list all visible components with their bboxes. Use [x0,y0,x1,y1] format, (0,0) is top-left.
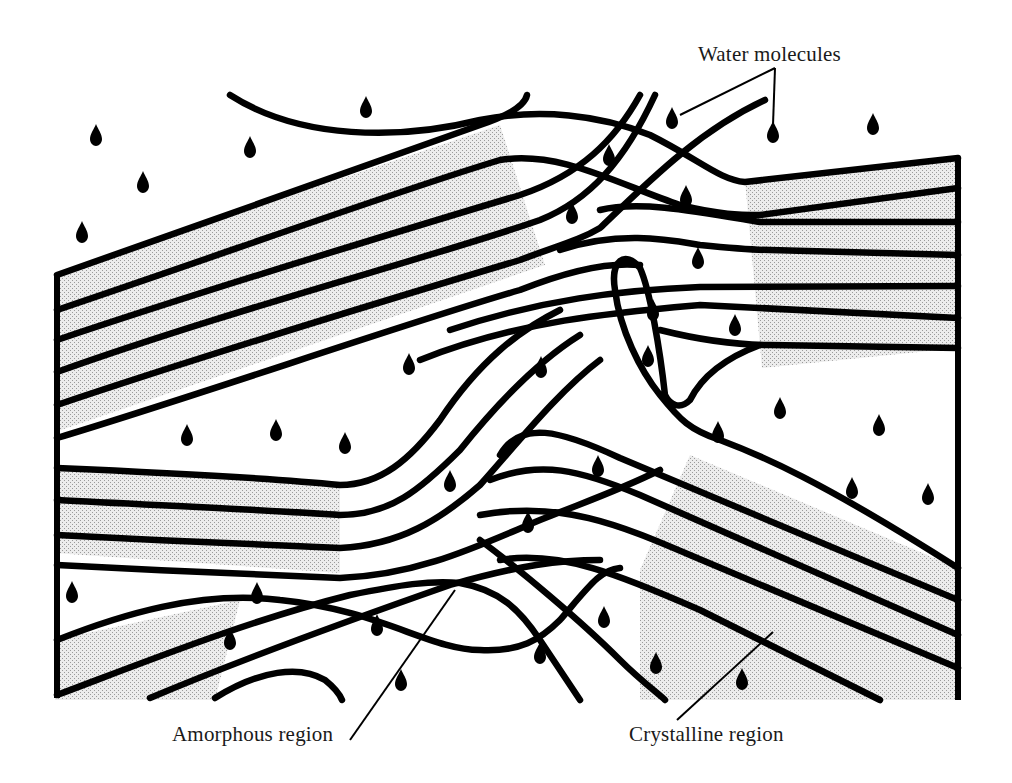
water-droplet-icon [712,421,724,443]
water-droplet-icon [360,96,372,118]
water-droplet-icon [867,113,879,135]
water-droplet-icon [403,353,415,375]
water-leader-line-1 [680,68,775,115]
water-droplet-icon [251,582,263,604]
water-droplet-icon [592,455,604,477]
water-droplet-icon [522,511,534,533]
water-droplet-icon [270,419,282,441]
water-droplet-icon [922,483,934,505]
water-droplet-icon [680,185,692,207]
crystalline-region-label: Crystalline region [629,722,784,747]
water-droplet-icon [444,470,456,492]
water-droplet-icon [729,314,741,336]
water-droplet-icon [692,247,704,269]
water-droplet-icon [873,414,885,436]
amorphous-region-label: Amorphous region [172,722,333,747]
water-droplet-icon [181,424,193,446]
water-droplet-icon [666,107,678,129]
water-droplet-icon [244,136,256,158]
water-leader-line-2 [773,68,775,125]
water-droplet-icon [846,477,858,499]
water-molecules-label: Water molecules [698,42,841,67]
water-droplet-icon [598,606,610,628]
polymer-structure-diagram [0,0,1012,783]
water-droplet-icon [66,581,78,603]
water-droplet-icon [774,397,786,419]
water-droplet-icon [137,171,149,193]
water-droplet-icon [642,345,654,367]
water-droplet-icon [76,221,88,243]
water-droplet-icon [90,124,102,146]
water-droplet-icon [339,432,351,454]
